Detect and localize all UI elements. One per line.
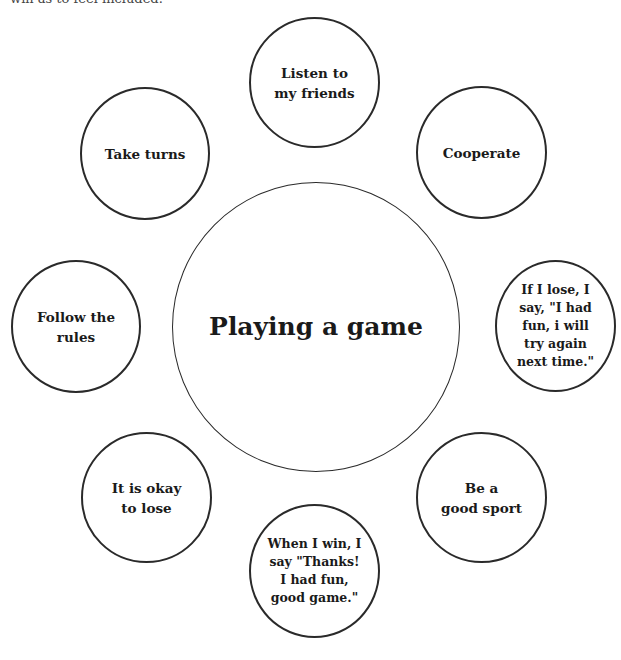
bubble-label: Listen to my friends — [274, 63, 354, 103]
bubble-label: Cooperate — [443, 143, 520, 163]
bubble-label: It is okay to lose — [112, 478, 182, 518]
bubble-follow-rules: Follow the rules — [11, 260, 141, 393]
bubble-label: Follow the rules — [37, 307, 115, 347]
bubble-good-sport: Be a good sport — [416, 432, 547, 563]
center-bubble: Playing a game — [172, 182, 460, 472]
clipped-header-text: win as to feel included. — [10, 0, 163, 6]
bubble-label: If I lose, I say, "I had fun, i will try… — [517, 281, 594, 371]
bubble-if-lose: If I lose, I say, "I had fun, i will try… — [495, 260, 616, 392]
bubble-take-turns: Take turns — [80, 87, 210, 220]
bubble-listen: Listen to my friends — [249, 17, 380, 148]
bubble-when-win: When I win, I say "Thanks! I had fun, go… — [249, 504, 380, 638]
center-label: Playing a game — [209, 312, 423, 342]
bubble-label: Be a good sport — [441, 478, 522, 518]
bubble-label: Take turns — [105, 144, 186, 164]
bubble-cooperate: Cooperate — [416, 86, 547, 219]
bubble-okay-to-lose: It is okay to lose — [81, 432, 212, 563]
bubble-label: When I win, I say "Thanks! I had fun, go… — [268, 535, 362, 607]
